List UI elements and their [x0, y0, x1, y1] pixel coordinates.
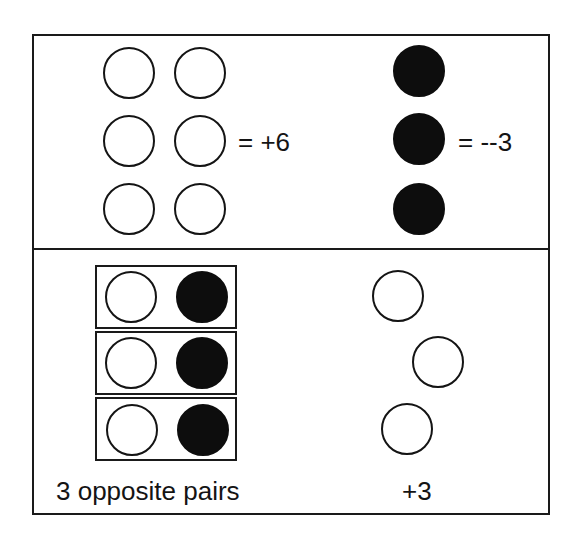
positive-chip-icon: [103, 115, 155, 167]
positive-chip-icon: [103, 47, 155, 99]
negative-chip-icon: [393, 113, 445, 165]
positive-chip-icon: [106, 404, 158, 456]
positive-chip-icon: [381, 403, 433, 455]
negative-chip-icon: [393, 183, 445, 235]
positive-total-label: = +6: [238, 127, 290, 157]
negative-chip-icon: [176, 271, 228, 323]
positive-chip-icon: [372, 270, 424, 322]
positive-chip-icon: [412, 336, 464, 388]
opposite-pairs-label: 3 opposite pairs: [56, 476, 240, 506]
positive-chip-icon: [105, 271, 157, 323]
positive-chip-icon: [105, 337, 157, 389]
negative-chip-icon: [393, 45, 445, 97]
positive-chip-icon: [174, 115, 226, 167]
positive-chip-icon: [174, 47, 226, 99]
remaining-total-label: +3: [402, 476, 432, 506]
negative-chip-icon: [176, 337, 228, 389]
panel-divider: [32, 248, 550, 250]
positive-chip-icon: [103, 183, 155, 235]
positive-chip-icon: [174, 183, 226, 235]
negative-total-label: = --3: [458, 127, 512, 157]
negative-chip-icon: [177, 404, 229, 456]
